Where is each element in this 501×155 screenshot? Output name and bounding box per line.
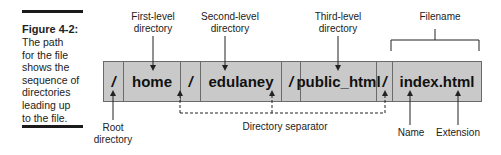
- label-line: Root: [90, 122, 136, 134]
- filename-bracket-icon: [391, 40, 479, 51]
- root-directory-label: Root directory: [90, 122, 136, 146]
- label-line: directory: [90, 134, 136, 146]
- extension-label: Extension: [433, 127, 483, 139]
- directory-separator-label: Directory separator: [230, 121, 340, 133]
- name-label: Name: [395, 127, 427, 139]
